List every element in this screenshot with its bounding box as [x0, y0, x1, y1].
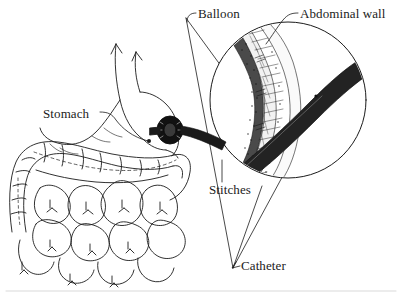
label-catheter: Catheter [241, 259, 286, 272]
label-balloon: Balloon [198, 7, 240, 20]
label-stomach: Stomach [43, 107, 89, 120]
anatomy-diagram [0, 0, 402, 298]
label-stitches: Stitches [209, 183, 251, 196]
external-bolster-disc [157, 116, 183, 144]
label-abdominal-wall: Abdominal wall [300, 7, 386, 20]
stomach-leader-dot [147, 139, 151, 143]
